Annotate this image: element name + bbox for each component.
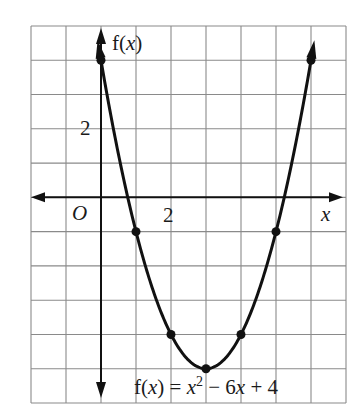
data-point	[202, 364, 211, 373]
x-tick-label-2: 2	[163, 203, 174, 227]
y-tick-label-2: 2	[80, 116, 91, 140]
data-point	[237, 330, 246, 339]
data-point	[167, 330, 176, 339]
function-equation-label: f(x) = x2 − 6x + 4	[134, 374, 279, 399]
data-point	[97, 56, 106, 65]
origin-label: O	[72, 201, 87, 225]
parabola-graph: f(x) x O 2 2 f(x) = x2 − 6x + 4	[0, 0, 355, 415]
axis-labels: f(x) x O 2 2 f(x) = x2 − 6x + 4	[72, 31, 331, 399]
y-axis-up-arrow-icon	[96, 28, 106, 44]
x-axis-left-arrow-icon	[31, 192, 45, 202]
data-point	[272, 227, 281, 236]
x-axis-right-arrow-icon	[329, 192, 343, 202]
y-axis-down-arrow-icon	[96, 382, 106, 398]
data-point	[307, 56, 316, 65]
data-point	[132, 227, 141, 236]
y-axis-label: f(x)	[112, 31, 142, 55]
x-axis-label: x	[320, 202, 331, 226]
